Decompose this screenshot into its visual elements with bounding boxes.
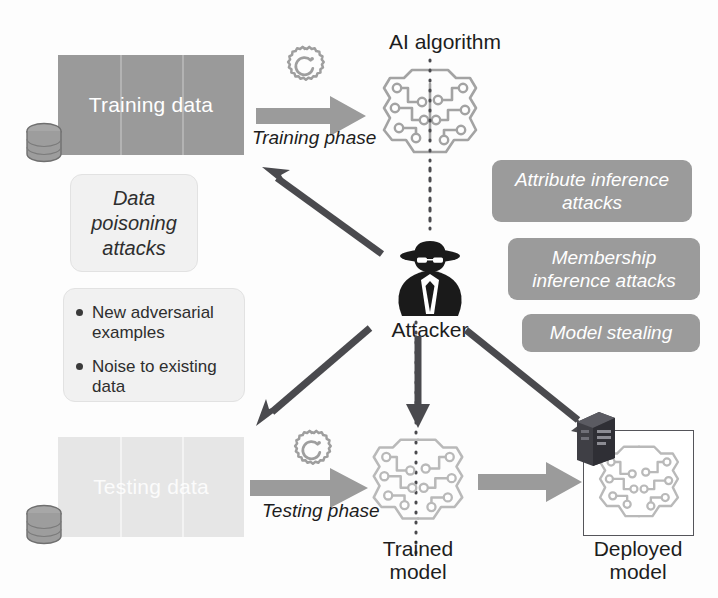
gear-refresh-icon-training xyxy=(281,44,327,90)
deployed-model-label: Deployed model xyxy=(568,537,708,583)
testing-data-label: Testing data xyxy=(93,475,209,499)
tag-model-stealing: Model stealing xyxy=(522,314,700,352)
tag-label: Attribute inference attacks xyxy=(502,168,682,214)
database-icon-testing xyxy=(25,504,63,546)
ai-brain-circuit-icon-trained-model xyxy=(368,432,468,532)
testing-data-block: Testing data xyxy=(58,437,244,537)
data-poisoning-label: Data poisoning attacks xyxy=(91,186,177,261)
server-tower-icon xyxy=(573,408,619,470)
list-item: New adversarial examples xyxy=(92,303,234,344)
arrow-attacker-to-training-data xyxy=(262,167,382,254)
ai-algorithm-label: AI algorithm xyxy=(340,30,550,53)
attacker-label: Attacker xyxy=(360,318,500,341)
training-phase-label: Training phase xyxy=(252,127,376,149)
adversarial-bullet-list: New adversarial examples Noise to existi… xyxy=(64,289,244,398)
training-data-label: Training data xyxy=(89,93,213,117)
diagram-canvas: Training data Data poisoning attacks New… xyxy=(0,0,718,598)
tag-label: Model stealing xyxy=(550,321,673,344)
callout-data-poisoning: Data poisoning attacks xyxy=(70,174,198,272)
trained-model-label: Trained model xyxy=(348,537,488,583)
spy-attacker-icon xyxy=(388,234,472,318)
tag-label: Membership inference attacks xyxy=(518,246,690,292)
list-item: Noise to existing data xyxy=(92,357,234,398)
database-icon-training xyxy=(25,122,63,164)
tag-membership-inference-attacks: Membership inference attacks xyxy=(508,238,700,300)
callout-adversarial-examples: New adversarial examples Noise to existi… xyxy=(63,288,245,402)
arrow-attacker-to-trained-model xyxy=(406,336,430,428)
arrow-attacker-to-testing-data xyxy=(256,328,370,426)
trained-to-deployed-arrow xyxy=(478,462,582,502)
tag-attribute-inference-attacks: Attribute inference attacks xyxy=(492,160,692,222)
ai-brain-circuit-icon-algorithm xyxy=(378,62,482,166)
training-data-block: Training data xyxy=(58,55,244,155)
testing-phase-label: Testing phase xyxy=(262,500,380,522)
